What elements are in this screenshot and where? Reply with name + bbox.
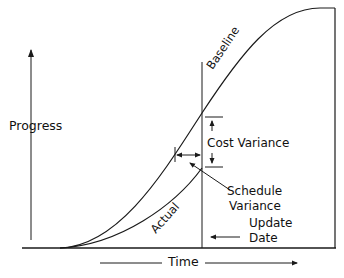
cost-variance-label: Cost Variance	[207, 136, 289, 150]
update-date-label-line2: Date	[249, 231, 278, 245]
schedule-variance-label-line2: Variance	[229, 199, 281, 213]
schedule-variance-label-line1: Schedule	[227, 184, 282, 198]
update-date-label-line1: Update	[249, 216, 292, 230]
x-axis-label: Time	[168, 255, 199, 269]
baseline-curve	[60, 8, 335, 248]
variance-diagram	[0, 0, 344, 278]
y-axis-label: Progress	[9, 119, 62, 133]
